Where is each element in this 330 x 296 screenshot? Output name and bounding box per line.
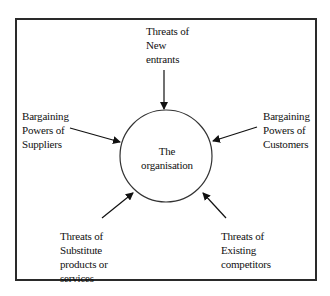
- text-line: Customers: [263, 137, 310, 151]
- text-line: competitors: [221, 257, 271, 271]
- text-line: services: [60, 271, 108, 285]
- text-line: The: [130, 144, 204, 158]
- text-line: Suppliers: [22, 137, 69, 151]
- text-line: organisation: [130, 158, 204, 172]
- text-line: Powers of: [22, 123, 69, 137]
- text-line: Substitute: [60, 243, 108, 257]
- label-new-entrants: Threats of New entrants: [146, 24, 189, 66]
- arrow-substitutes: [102, 193, 133, 218]
- arrow-suppliers: [70, 128, 120, 142]
- label-suppliers: Bargaining Powers of Suppliers: [22, 109, 69, 151]
- arrow-competitors: [203, 193, 226, 218]
- text-line: Bargaining: [263, 109, 310, 123]
- label-customers: Bargaining Powers of Customers: [263, 109, 310, 151]
- label-competitors: Threats of Existing competitors: [221, 229, 271, 271]
- text-line: Powers of: [263, 123, 310, 137]
- text-line: products or: [60, 257, 108, 271]
- text-line: Threats of: [221, 229, 271, 243]
- arrow-customers: [213, 127, 257, 141]
- text-line: New: [146, 38, 189, 52]
- label-organisation: The organisation: [130, 144, 204, 172]
- text-line: Bargaining: [22, 109, 69, 123]
- text-line: Threats of: [146, 24, 189, 38]
- text-line: Threats of: [60, 229, 108, 243]
- label-substitutes: Threats of Substitute products or servic…: [60, 229, 108, 285]
- text-line: Existing: [221, 243, 271, 257]
- text-line: entrants: [146, 52, 189, 66]
